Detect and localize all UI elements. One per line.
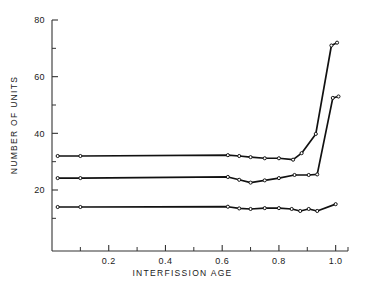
- data-point-marker: [79, 205, 82, 208]
- data-point-marker: [238, 207, 241, 210]
- x-axis-ticks: [80, 245, 348, 251]
- series-line: [58, 97, 339, 183]
- data-point-marker: [263, 157, 266, 160]
- data-point-marker: [263, 207, 266, 210]
- x-axis-tick-labels: 0.20.40.60.81.0: [102, 256, 343, 266]
- data-point-marker: [249, 181, 252, 184]
- data-point-marker: [238, 178, 241, 181]
- data-point-marker: [299, 209, 302, 212]
- data-point-marker: [263, 179, 266, 182]
- data-point-marker: [226, 175, 229, 178]
- y-tick-label: 80: [34, 15, 45, 25]
- x-tick-label: 0.4: [159, 256, 173, 266]
- data-point-marker: [316, 209, 319, 212]
- data-point-marker: [226, 205, 229, 208]
- data-point-marker: [238, 154, 241, 157]
- line-chart-plot: 20406080 0.20.40.60.81.0: [0, 0, 365, 295]
- data-point-marker: [300, 152, 303, 155]
- y-axis-tick-labels: 20406080: [34, 15, 45, 195]
- data-point-marker: [79, 177, 82, 180]
- x-tick-label: 1.0: [329, 256, 343, 266]
- data-point-marker: [290, 207, 293, 210]
- y-tick-label: 60: [34, 72, 45, 82]
- data-point-marker: [330, 44, 333, 47]
- series-line: [58, 43, 337, 160]
- data-point-marker: [307, 173, 310, 176]
- y-tick-label: 40: [34, 129, 45, 139]
- data-point-marker: [307, 207, 310, 210]
- data-point-marker: [56, 154, 59, 157]
- y-tick-label: 20: [34, 185, 45, 195]
- series-middle: [56, 95, 340, 184]
- series-upper: [56, 41, 339, 161]
- x-tick-label: 0.2: [102, 256, 116, 266]
- x-tick-label: 0.6: [215, 256, 229, 266]
- axis-lines: [52, 20, 348, 251]
- data-point-marker: [56, 177, 59, 180]
- data-point-marker: [277, 177, 280, 180]
- data-point-marker: [316, 173, 319, 176]
- data-point-marker: [226, 154, 229, 157]
- chart-figure: NUMBER OF UNITS 20406080 0.20.40.60.81.0…: [0, 0, 365, 295]
- data-point-marker: [314, 132, 317, 135]
- series-lower: [56, 203, 337, 213]
- data-point-marker: [293, 173, 296, 176]
- data-point-marker: [277, 207, 280, 210]
- data-point-marker: [277, 157, 280, 160]
- data-point-marker: [331, 96, 334, 99]
- x-axis-title: INTERFISSION AGE: [0, 268, 365, 278]
- data-point-marker: [79, 154, 82, 157]
- x-axis-title-text: INTERFISSION AGE: [132, 268, 232, 278]
- data-point-marker: [334, 203, 337, 206]
- data-point-marker: [336, 41, 339, 44]
- x-tick-label: 0.8: [272, 256, 286, 266]
- data-point-marker: [292, 158, 295, 161]
- series-line: [58, 204, 336, 211]
- data-point-marker: [337, 95, 340, 98]
- y-axis-ticks: [52, 20, 58, 218]
- data-point-marker: [249, 207, 252, 210]
- data-point-marker: [249, 156, 252, 159]
- data-series-layer: [56, 41, 340, 212]
- data-point-marker: [56, 205, 59, 208]
